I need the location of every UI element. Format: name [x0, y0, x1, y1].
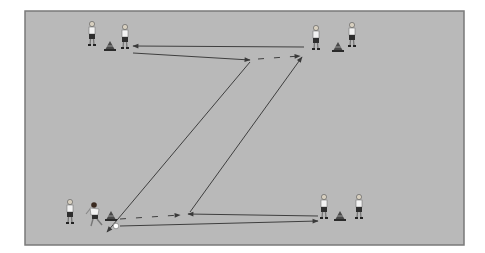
drill-diagram: [0, 0, 485, 253]
ball-icon: [113, 223, 119, 229]
